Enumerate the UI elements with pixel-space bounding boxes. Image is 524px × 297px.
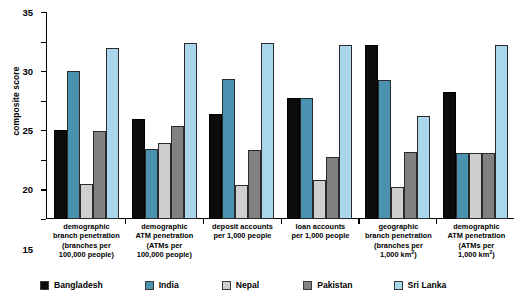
category-label-3: deposit accountsper 1,000 people xyxy=(203,222,281,270)
legend-label: Pakistan xyxy=(317,280,352,290)
bar-group-1 xyxy=(47,12,125,219)
bar-india-group-4 xyxy=(300,98,313,219)
category-label-6: demographicATM penetration(ATMs per1,000… xyxy=(437,222,515,270)
legend-swatch-nepal xyxy=(222,281,231,290)
category-label-line: deposit accounts xyxy=(204,222,280,231)
plot-area: 05101520253035 xyxy=(46,12,514,219)
legend-item-india[interactable]: India xyxy=(145,280,179,290)
category-label-line: ATM penetration xyxy=(126,231,202,240)
category-label-line: (branches per xyxy=(360,241,436,250)
category-label-line: per 1,000 people xyxy=(204,231,280,240)
bar-pakistan-group-3 xyxy=(248,150,261,219)
bar-nepal-group-6 xyxy=(469,153,482,219)
bar-pakistan-group-2 xyxy=(171,126,184,219)
chart-legend: BangladeshIndiaNepalPakistanSri Lanka xyxy=(0,277,524,293)
category-label-line: (ATMs per xyxy=(126,241,202,250)
bar-nepal-group-5 xyxy=(391,187,404,219)
category-label-line: demographic xyxy=(126,222,202,231)
category-label-line: demographic xyxy=(48,222,124,231)
category-label-line: (branches per xyxy=(48,241,124,250)
y-tick-label-25: 25 xyxy=(22,125,33,136)
category-label-2: demographicATM penetration(ATMs per100,0… xyxy=(125,222,203,270)
y-tick-5: 5 xyxy=(41,189,46,190)
bar-sri-lanka-group-1 xyxy=(106,48,119,219)
y-tick-10: 10 xyxy=(41,160,46,161)
y-tick-0: 0 xyxy=(41,219,46,220)
bar-india-group-1 xyxy=(67,71,80,219)
bar-india-group-2 xyxy=(145,149,158,219)
category-label-line: 100,000 people) xyxy=(126,250,202,259)
legend-item-bangladesh[interactable]: Bangladesh xyxy=(40,280,103,290)
y-tick-15: 15 xyxy=(41,130,46,131)
bar-bangladesh-group-4 xyxy=(287,98,300,219)
category-label-1: demographicbranch penetration(branches p… xyxy=(47,222,125,270)
category-label-line: loan accounts xyxy=(282,222,358,231)
category-label-line: branch penetration xyxy=(360,231,436,240)
bar-nepal-group-3 xyxy=(235,185,248,219)
category-label-line: branch penetration xyxy=(48,231,124,240)
legend-swatch-bangladesh xyxy=(40,281,49,290)
bar-india-group-3 xyxy=(222,79,235,219)
legend-label: Bangladesh xyxy=(54,280,103,290)
bar-sri-lanka-group-2 xyxy=(184,43,197,219)
bar-pakistan-group-4 xyxy=(326,157,339,219)
bar-pakistan-group-5 xyxy=(404,152,417,219)
bar-group-3 xyxy=(203,12,281,219)
legend-swatch-pakistan xyxy=(303,281,312,290)
bar-sri-lanka-group-5 xyxy=(417,116,430,219)
bar-pakistan-group-1 xyxy=(93,131,106,219)
y-tick-25: 25 xyxy=(41,71,46,72)
category-label-4: loan accountsper 1,000 people xyxy=(281,222,359,270)
bar-groups xyxy=(47,12,514,219)
bar-bangladesh-group-1 xyxy=(54,130,67,219)
y-axis-label: composite score xyxy=(11,41,21,161)
bar-bangladesh-group-6 xyxy=(443,92,456,219)
bar-pakistan-group-6 xyxy=(482,153,495,219)
category-label-line: geographic xyxy=(360,222,436,231)
legend-swatch-srilanka xyxy=(394,281,403,290)
bar-nepal-group-1 xyxy=(80,184,93,219)
bar-nepal-group-2 xyxy=(158,143,171,219)
legend-item-pakistan[interactable]: Pakistan xyxy=(303,280,352,290)
category-label-line: ATM penetration xyxy=(438,231,514,240)
category-label-line: demographic xyxy=(438,222,514,231)
bar-group-5 xyxy=(358,12,436,219)
y-tick-label-20: 20 xyxy=(22,184,33,195)
legend-swatch-india xyxy=(145,281,154,290)
y-tick-label-35: 35 xyxy=(22,7,33,18)
y-tick-20: 20 xyxy=(41,101,46,102)
category-label-line: 1,000 km2) xyxy=(438,250,514,259)
category-label-5: geographicbranch penetration(branches pe… xyxy=(359,222,437,270)
superscript-two: 2 xyxy=(411,248,414,254)
category-label-line: 1,000 km2) xyxy=(360,250,436,259)
bar-group-6 xyxy=(436,12,514,219)
y-tick-label-30: 30 xyxy=(22,66,33,77)
bar-bangladesh-group-3 xyxy=(209,114,222,219)
bar-bangladesh-group-5 xyxy=(365,45,378,219)
legend-item-nepal[interactable]: Nepal xyxy=(222,280,259,290)
y-tick-30: 30 xyxy=(41,42,46,43)
bar-bangladesh-group-2 xyxy=(132,119,145,219)
bar-sri-lanka-group-4 xyxy=(339,45,352,219)
x-axis-category-labels: demographicbranch penetration(branches p… xyxy=(47,222,515,270)
y-tick-label-15: 15 xyxy=(22,243,33,254)
superscript-two: 2 xyxy=(489,248,492,254)
y-tick-35: 35 xyxy=(41,12,46,13)
legend-label: Nepal xyxy=(236,280,259,290)
category-label-line: per 1,000 people xyxy=(282,231,358,240)
bar-chart: composite score 05101520253035 demograph… xyxy=(0,0,524,297)
bar-group-4 xyxy=(281,12,359,219)
bar-india-group-5 xyxy=(378,80,391,219)
bar-sri-lanka-group-3 xyxy=(261,43,274,219)
bar-nepal-group-4 xyxy=(313,180,326,219)
legend-item-sri-lanka[interactable]: Sri Lanka xyxy=(394,280,447,290)
bar-india-group-6 xyxy=(456,153,469,219)
legend-label: Sri Lanka xyxy=(408,280,447,290)
bar-sri-lanka-group-6 xyxy=(495,45,508,219)
category-label-line: (ATMs per xyxy=(438,241,514,250)
category-label-line: 100,000 people) xyxy=(48,250,124,259)
bar-group-2 xyxy=(125,12,203,219)
legend-label: India xyxy=(159,280,179,290)
